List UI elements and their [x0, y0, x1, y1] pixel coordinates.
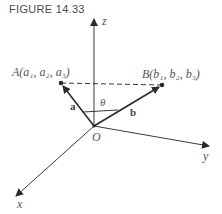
y-axis — [94, 126, 209, 146]
x-axis-label: x — [16, 197, 23, 211]
vector-a — [63, 86, 94, 126]
angle-indicator — [83, 110, 118, 112]
point-b-label: B(b₁, b₂, b₃) — [142, 67, 200, 81]
vector-angle-diagram: z y x O A(a₁, a₂, a₃) B(b₁, b₂, b₃) a b … — [0, 0, 222, 214]
vector-b-label: b — [130, 106, 136, 118]
origin-dot — [92, 124, 95, 127]
vector-a-label: a — [70, 100, 76, 112]
y-axis-label: y — [202, 149, 209, 163]
origin-label: O — [92, 130, 101, 144]
x-axis — [16, 126, 94, 196]
point-a-dot — [59, 81, 64, 86]
angle-theta-label: θ — [100, 96, 106, 108]
point-a-label: A(a₁, a₂, a₃) — [11, 65, 70, 79]
dashed-connector — [61, 83, 162, 85]
z-axis-label: z — [101, 14, 107, 28]
point-b-dot — [160, 83, 165, 88]
